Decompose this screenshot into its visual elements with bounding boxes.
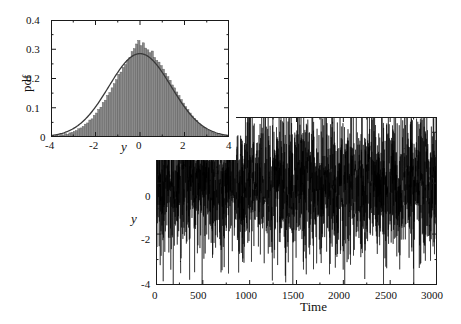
inset-yaxis-title: pdf xyxy=(20,75,33,92)
main-xtick-0: 0 xyxy=(152,290,158,301)
main-ytick--4: -4 xyxy=(141,279,150,290)
inset-ytick-0p3: 0.3 xyxy=(26,44,40,55)
main-xtick-3000: 3000 xyxy=(421,290,443,301)
inset-xtick--2: -2 xyxy=(89,140,98,151)
main-yaxis-title: y xyxy=(131,212,137,225)
inset-xtick--4: -4 xyxy=(45,140,54,151)
main-xtick-500: 500 xyxy=(190,290,207,301)
main-ytick-0: 0 xyxy=(145,191,151,202)
main-xtick-2500: 2500 xyxy=(375,290,397,301)
inset-xtick-2: 2 xyxy=(180,140,186,151)
main-xtick-2000: 2000 xyxy=(328,290,350,301)
inset-xtick-4: 4 xyxy=(226,140,232,151)
main-xtick-1000: 1000 xyxy=(235,290,257,301)
inset-axis-ticks xyxy=(51,20,229,137)
figure-canvas: 0 500 1000 1500 2000 2500 3000 2 0 -2 -4… xyxy=(0,0,461,324)
inset-xaxis-title: y xyxy=(121,140,127,153)
inset-ytick-0p4: 0.4 xyxy=(26,15,40,26)
main-xaxis-title: Time xyxy=(300,300,327,313)
main-ytick--2: -2 xyxy=(141,234,150,245)
inset-xtick-0: 0 xyxy=(136,140,142,151)
inset-ytick-0p1: 0.1 xyxy=(26,103,40,114)
